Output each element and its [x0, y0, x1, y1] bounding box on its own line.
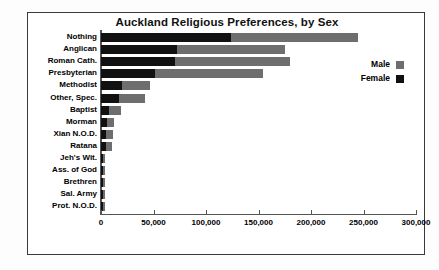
bar-row: Jeh's Wit. — [28, 154, 416, 163]
category-label: Prot. N.O.D. — [19, 201, 97, 211]
x-tick — [364, 210, 365, 214]
bar-segment-female — [101, 81, 122, 90]
category-label: Presbyterian — [19, 68, 97, 78]
x-tick-label: 300,000 — [386, 218, 439, 227]
legend-label: Female — [361, 73, 390, 83]
legend-swatch-male — [396, 61, 404, 69]
x-axis-line — [100, 214, 417, 215]
legend-swatch-female — [396, 75, 404, 83]
x-tick — [206, 210, 207, 214]
x-tick — [154, 210, 155, 214]
category-label: Baptist — [19, 105, 97, 115]
category-label: Jeh's Wit. — [19, 153, 97, 163]
bar-row: Nothing — [28, 33, 416, 42]
bar-segment-male — [155, 69, 263, 78]
bar-segment-male — [103, 166, 105, 175]
category-label: Nothing — [19, 32, 97, 42]
legend-item: Female — [328, 73, 404, 85]
bar-row: Baptist — [28, 106, 416, 115]
legend-item: Male — [328, 59, 404, 71]
category-label: Other, Spec. — [19, 93, 97, 103]
x-tick-label: 50,000 — [124, 218, 184, 227]
category-label: Sal. Army — [19, 189, 97, 199]
bar-row: Xian N.O.D. — [28, 130, 416, 139]
bar-segment-male — [175, 57, 291, 66]
bar-segment-male — [103, 178, 105, 187]
bar-segment-female — [101, 69, 155, 78]
x-tick — [311, 210, 312, 214]
bar-segment-male — [177, 45, 285, 54]
bar-row: Ratana — [28, 142, 416, 151]
x-tick — [101, 210, 102, 214]
chart-screenshot: Auckland Religious Preferences, by Sex N… — [0, 0, 439, 270]
bar-segment-male — [107, 118, 113, 127]
bar-row: Brethren — [28, 178, 416, 187]
x-tick — [259, 210, 260, 214]
x-tick-label: 0 — [71, 218, 131, 227]
bar-row: Sal. Army — [28, 190, 416, 199]
bar-row: Ass. of God — [28, 166, 416, 175]
category-label: Roman Cath. — [19, 56, 97, 66]
category-label: Brethren — [19, 177, 97, 187]
bar-segment-male — [106, 130, 112, 139]
bar-row: Prot. N.O.D. — [28, 202, 416, 211]
category-label: Anglican — [19, 44, 97, 54]
x-tick-label: 200,000 — [281, 218, 341, 227]
category-label: Ratana — [19, 141, 97, 151]
bar-segment-male — [103, 154, 105, 163]
bar-segment-male — [103, 202, 105, 211]
category-label: Morman — [19, 117, 97, 127]
plot-area: NothingAnglicanRoman Cath.PresbyterianMe… — [28, 13, 426, 256]
x-tick-label: 100,000 — [176, 218, 236, 227]
category-label: Methodist — [19, 80, 97, 90]
bar-segment-male — [122, 81, 150, 90]
bar-row: Other, Spec. — [28, 94, 416, 103]
bar-segment-male — [106, 142, 111, 151]
bar-segment-female — [101, 33, 231, 42]
x-tick-label: 250,000 — [334, 218, 394, 227]
x-tick — [416, 210, 417, 214]
legend-label: Male — [371, 59, 390, 69]
bar-segment-female — [101, 106, 109, 115]
bar-segment-female — [101, 94, 119, 103]
chart-frame: Auckland Religious Preferences, by Sex N… — [27, 12, 425, 255]
category-label: Ass. of God — [19, 165, 97, 175]
bar-segment-female — [101, 57, 175, 66]
bar-segment-male — [109, 106, 121, 115]
bar-segment-male — [119, 94, 145, 103]
bar-segment-male — [103, 190, 105, 199]
bar-segment-male — [231, 33, 358, 42]
chart-legend: MaleFemale — [328, 59, 404, 87]
bar-row: Morman — [28, 118, 416, 127]
bar-row: Anglican — [28, 45, 416, 54]
category-label: Xian N.O.D. — [19, 129, 97, 139]
bar-segment-female — [101, 45, 177, 54]
x-tick-label: 150,000 — [229, 218, 289, 227]
